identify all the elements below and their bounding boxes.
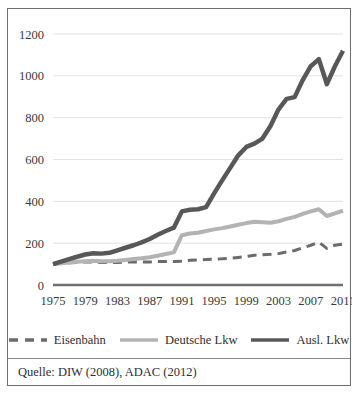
series-line-deutsche-lkw xyxy=(53,209,343,264)
y-tick-label: 600 xyxy=(25,153,44,167)
legend-label: Eisenbahn xyxy=(54,333,106,348)
x-tick-label: 1991 xyxy=(169,294,194,308)
y-axis-tick-labels: 020040060080010001200 xyxy=(19,28,44,293)
gridlines-group xyxy=(53,34,343,243)
y-tick-label: 1000 xyxy=(19,69,44,83)
x-tick-label: 1975 xyxy=(41,294,66,308)
legend-swatch-deutsche-lkw xyxy=(120,334,158,346)
source-divider xyxy=(8,358,350,359)
chart-figure: 020040060080010001200 197519791983198719… xyxy=(7,8,351,386)
legend-label: Deutsche Lkw xyxy=(165,333,238,348)
series-lines-group xyxy=(53,51,343,264)
legend-label: Ausl. Lkw xyxy=(296,333,349,348)
x-tick-label: 1983 xyxy=(105,294,130,308)
y-tick-label: 400 xyxy=(25,195,44,209)
y-tick-label: 1200 xyxy=(19,28,44,42)
x-tick-label: 1979 xyxy=(73,294,98,308)
plot-area: 020040060080010001200 197519791983198719… xyxy=(8,9,350,325)
x-axis-tick-labels: 1975197919831987199119951999200320072011 xyxy=(41,294,353,308)
y-tick-label: 800 xyxy=(25,111,44,125)
x-tick-label: 2011 xyxy=(331,294,352,308)
x-tick-label: 2003 xyxy=(266,294,291,308)
line-chart-svg: 020040060080010001200 197519791983198719… xyxy=(8,9,352,325)
legend-swatch-ausl-lkw xyxy=(251,334,289,346)
legend-entry[interactable]: Deutsche Lkw xyxy=(120,333,238,348)
legend-entry[interactable]: Ausl. Lkw xyxy=(251,333,349,348)
x-tick-label: 1995 xyxy=(202,294,227,308)
legend-entry[interactable]: Eisenbahn xyxy=(9,333,106,348)
chart-legend: EisenbahnDeutsche LkwAusl. Lkw xyxy=(8,325,350,355)
y-tick-label: 0 xyxy=(38,279,44,293)
x-tick-label: 1987 xyxy=(137,294,162,308)
y-tick-label: 200 xyxy=(25,237,44,251)
x-tick-label: 2007 xyxy=(298,294,323,308)
legend-swatch-eisenbahn xyxy=(9,334,47,346)
source-note: Quelle: DIW (2008), ADAC (2012) xyxy=(18,365,197,380)
x-tick-label: 1999 xyxy=(234,294,259,308)
